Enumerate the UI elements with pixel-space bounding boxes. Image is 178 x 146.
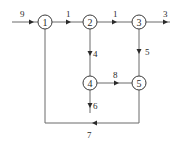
node-2: 2	[83, 15, 97, 29]
node-4-label: 4	[88, 78, 93, 89]
node-5: 5	[132, 76, 146, 90]
node-3: 3	[132, 15, 146, 29]
edge-9-arrow-icon	[29, 20, 34, 25]
edge-2-arrow-icon	[112, 20, 117, 25]
edge-1-label: 1	[66, 9, 71, 19]
edge-6-label: 6	[93, 101, 98, 111]
edge-7-arrow-icon	[92, 121, 97, 126]
node-2-label: 2	[88, 17, 93, 28]
edge-9-label: 9	[20, 9, 25, 19]
edge-3-arrow-icon	[163, 20, 168, 25]
nodes: 1 2 3 4 5	[38, 15, 146, 90]
edge-2-label: 1	[113, 9, 118, 19]
edge-5-arrow-icon	[137, 49, 142, 54]
flow-diagram: 9 1 1 3 4 5 8 6 7	[0, 0, 178, 146]
node-3-label: 3	[137, 17, 142, 28]
edge-4-arrow-icon	[88, 51, 93, 56]
edge-6-arrow-icon	[88, 103, 93, 108]
edge-5-label: 5	[145, 47, 150, 57]
node-1: 1	[38, 15, 52, 29]
node-5-label: 5	[137, 78, 142, 89]
node-4: 4	[83, 76, 97, 90]
edge-1-arrow-icon	[66, 20, 71, 25]
edge-7-label: 7	[87, 130, 92, 140]
node-1-label: 1	[43, 17, 48, 28]
edge-8-label: 8	[113, 70, 118, 80]
edge-4-label: 4	[93, 49, 98, 59]
edge-3-label: 3	[163, 9, 168, 19]
edge-8-arrow-icon	[114, 81, 119, 86]
